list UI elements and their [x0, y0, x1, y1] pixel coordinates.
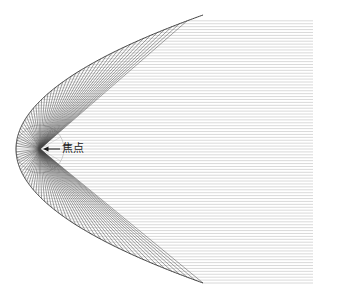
- ray-diagram-canvas: 焦点: [0, 0, 338, 297]
- focus-label: 焦点: [62, 142, 84, 155]
- parabolic-reflector-figure: 焦点: [0, 0, 338, 297]
